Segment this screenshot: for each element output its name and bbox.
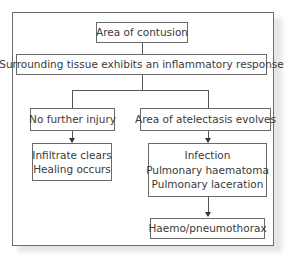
node-line: Infection [185,148,231,163]
node-no-further-injury: No further injury [30,108,115,131]
node-haemo-pneumothorax: Haemo/pneumothorax [150,218,265,239]
node-line: Pulmonary laceration [152,177,264,192]
connector-branch-right [208,90,209,108]
node-line: Healing occurs [33,162,111,177]
node-line: Pulmonary haematoma [146,163,269,178]
node-inflammatory-response: Surrounding tissue exhibits an inflammat… [16,54,267,75]
node-line: Infiltrate clears [32,148,111,163]
connector-contusion-inflammatory [142,43,143,54]
node-complications: Infection Pulmonary haematoma Pulmonary … [148,143,267,197]
node-label: Area of contusion [96,25,188,40]
node-area-of-contusion: Area of contusion [96,22,188,43]
connector-branch-horizontal [72,90,209,91]
node-label: No further injury [29,112,116,127]
connector-inflammatory-split [142,75,143,90]
node-healing: Infiltrate clears Healing occurs [32,143,112,181]
node-label: Surrounding tissue exhibits an inflammat… [0,57,284,72]
connector-branch-left [72,90,73,108]
node-label: Area of atelectasis evolves [135,112,276,127]
arrow-down-icon [205,212,211,217]
connector-complications-haemo [208,197,209,213]
node-label: Haemo/pneumothorax [148,221,266,236]
node-atelectasis-evolves: Area of atelectasis evolves [140,108,271,131]
